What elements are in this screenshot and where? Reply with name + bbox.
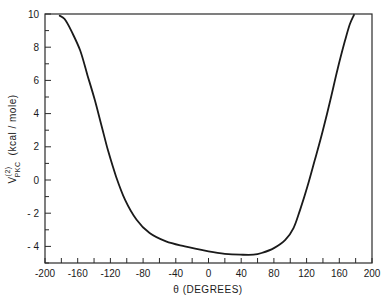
y-tick-label: 4 bbox=[33, 108, 39, 119]
data-series bbox=[60, 15, 354, 255]
svg-text:V(2)PKC(kcal / mole): V(2)PKC(kcal / mole) bbox=[4, 94, 21, 183]
x-tick-label: -120 bbox=[100, 268, 120, 279]
y-tick-label: 6 bbox=[33, 75, 39, 86]
series-line bbox=[60, 15, 354, 255]
x-axis-ticks: -200-160-120-80-4004080120160200 bbox=[35, 258, 381, 279]
plot-frame bbox=[45, 14, 372, 263]
x-tick-label: 160 bbox=[331, 268, 348, 279]
y-tick-label: - 4 bbox=[27, 241, 39, 252]
y-tick-label: - 2 bbox=[27, 208, 39, 219]
y-tick-label: 0 bbox=[33, 175, 39, 186]
x-tick-label: 0 bbox=[206, 268, 212, 279]
x-tick-label: -160 bbox=[68, 268, 88, 279]
y-label-subscript: PKC bbox=[14, 161, 21, 177]
x-tick-label: 120 bbox=[298, 268, 315, 279]
plot-border bbox=[45, 14, 372, 263]
x-axis-label: θ (DEGREES) bbox=[173, 284, 242, 295]
y-axis-ticks: - 4- 20246810 bbox=[27, 9, 51, 264]
y-label-units: (kcal / mole) bbox=[7, 94, 18, 155]
x-tick-label: 80 bbox=[268, 268, 280, 279]
chart: -200-160-120-80-4004080120160200 - 4- 20… bbox=[0, 0, 388, 301]
y-tick-label: 8 bbox=[33, 42, 39, 53]
y-axis-label: V(2)PKC(kcal / mole) bbox=[4, 94, 21, 183]
x-tick-label: 40 bbox=[236, 268, 248, 279]
y-tick-label: 10 bbox=[28, 9, 40, 20]
x-tick-label: 200 bbox=[364, 268, 381, 279]
x-tick-label: -40 bbox=[169, 268, 184, 279]
x-tick-label: -200 bbox=[35, 268, 55, 279]
x-tick-label: -80 bbox=[136, 268, 151, 279]
y-label-superscript: (2) bbox=[4, 166, 12, 176]
y-tick-label: 2 bbox=[33, 141, 39, 152]
